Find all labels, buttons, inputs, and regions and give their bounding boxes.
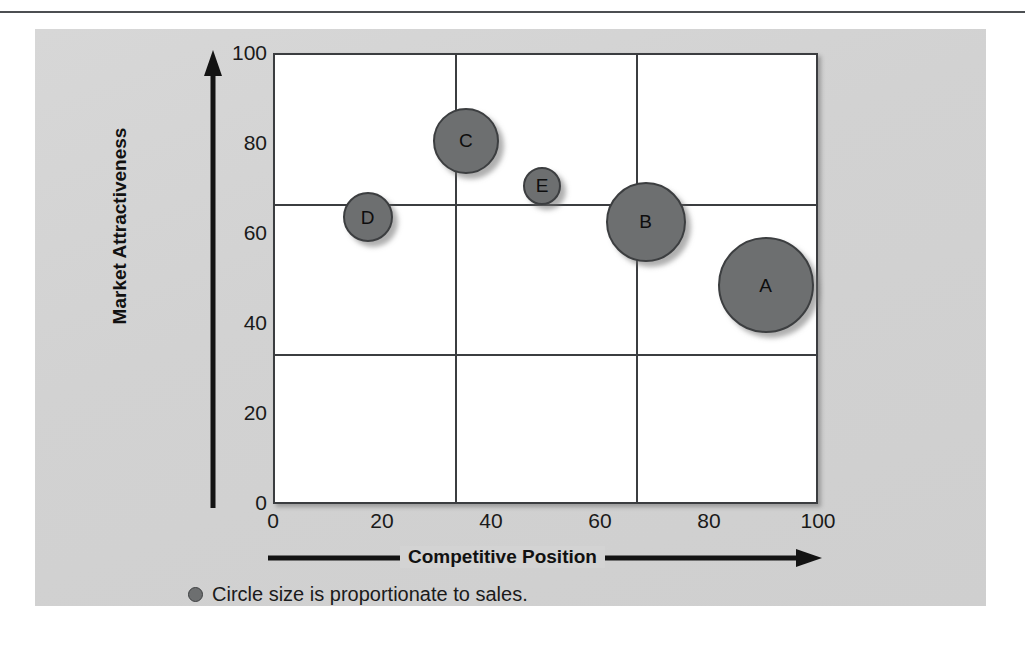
y-tick-20: 20 — [223, 401, 267, 425]
legend-circle-icon — [188, 587, 203, 602]
bubble-label-a: A — [759, 276, 772, 295]
bubble-c[interactable]: C — [433, 108, 499, 174]
x-tick-80: 80 — [679, 509, 739, 533]
y-tick-80: 80 — [223, 131, 267, 155]
bubble-b[interactable]: B — [606, 182, 686, 262]
x-tick-20: 20 — [352, 509, 412, 533]
bubble-label-e: E — [536, 176, 549, 195]
bubble-label-d: D — [361, 208, 375, 227]
x-tick-60: 60 — [570, 509, 630, 533]
bubble-chart-figure: Market Attractiveness 100 80 60 40 20 0 … — [0, 0, 1025, 654]
x-tick-0: 0 — [243, 509, 303, 533]
y-tick-60: 60 — [223, 221, 267, 245]
bubble-a[interactable]: A — [718, 237, 814, 333]
legend: Circle size is proportionate to sales. — [188, 583, 528, 606]
y-axis-title: Market Attractiveness — [109, 61, 131, 391]
x-axis-title: Competitive Position — [400, 546, 605, 568]
y-axis-tick-labels: 100 80 60 40 20 0 — [215, 53, 267, 504]
x-axis-tick-labels: 0 20 40 60 80 100 — [273, 509, 818, 539]
top-divider-rule — [0, 11, 1025, 13]
bubble-e[interactable]: E — [523, 167, 561, 205]
gridline-horizontal-2 — [275, 354, 816, 356]
x-tick-100: 100 — [788, 509, 848, 533]
gridline-vertical-2 — [636, 55, 638, 502]
bubble-label-b: B — [639, 212, 652, 231]
bubble-label-c: C — [459, 131, 473, 150]
x-tick-40: 40 — [461, 509, 521, 533]
bubble-d[interactable]: D — [343, 192, 393, 242]
legend-label: Circle size is proportionate to sales. — [212, 583, 528, 606]
plot-area: A B C D E — [273, 53, 818, 504]
y-tick-100: 100 — [223, 41, 267, 65]
y-tick-40: 40 — [223, 311, 267, 335]
